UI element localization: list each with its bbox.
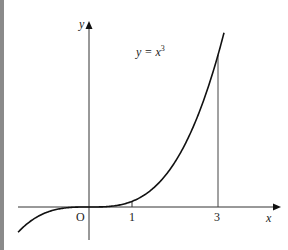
- cubic-graph: y x O 1 3 y = x3: [0, 0, 288, 250]
- tick-label-3: 3: [214, 210, 220, 224]
- y-axis-label: y: [78, 17, 85, 31]
- cubic-curve: [18, 33, 224, 233]
- x-axis-label: x: [265, 211, 272, 225]
- tick-label-1: 1: [129, 210, 135, 224]
- y-axis-arrow-icon: [86, 21, 93, 29]
- equation-label: y = x3: [135, 44, 165, 59]
- origin-label: O: [76, 210, 85, 224]
- x-axis-arrow-icon: [273, 204, 281, 211]
